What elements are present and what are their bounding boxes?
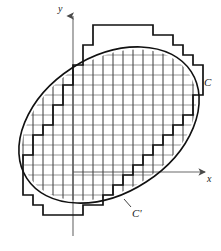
lattice-grid <box>0 0 221 251</box>
curve-label-c-prime: C' <box>132 208 142 219</box>
figure-canvas: C C' y x <box>0 0 221 251</box>
axis-label-y: y <box>58 4 62 14</box>
axis-label-x: x <box>207 174 211 184</box>
curve-cp-leader <box>124 199 131 207</box>
ellipse-lattice-diagram <box>0 0 221 251</box>
curve-label-c: C <box>204 77 211 88</box>
